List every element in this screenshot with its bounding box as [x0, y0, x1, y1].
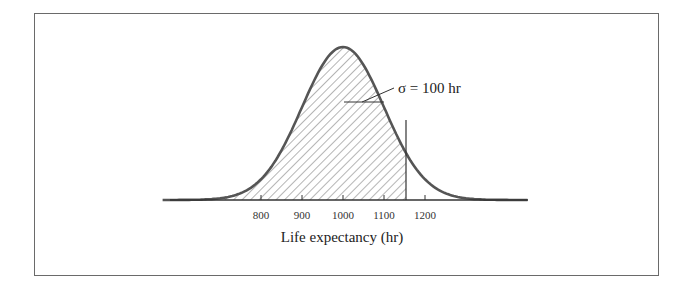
normal-curve-chart: 800900100011001200 σ = 100 hr Life expec… — [0, 0, 678, 296]
x-axis-title: Life expectancy (hr) — [281, 229, 403, 246]
x-tick-label: 800 — [253, 209, 270, 221]
x-tick-label: 1200 — [414, 209, 437, 221]
x-tick-label: 1000 — [332, 209, 355, 221]
sigma-annotation: σ = 100 hr — [398, 80, 461, 96]
plot-area — [163, 47, 528, 200]
x-tick-label: 900 — [294, 209, 311, 221]
shaded-region — [163, 47, 528, 200]
x-tick-label: 1100 — [373, 209, 395, 221]
